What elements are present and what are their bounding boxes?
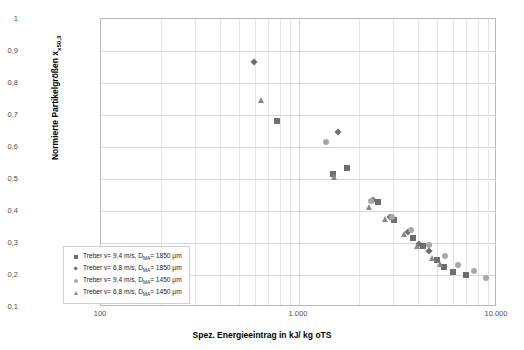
data-point-circle	[323, 139, 329, 145]
x-axis-tick-label: 10.000	[485, 309, 508, 318]
data-point-triangle	[401, 231, 407, 237]
x-axis-tick-label: 100	[94, 309, 107, 318]
y-axis-tick-label: 0,4	[0, 206, 18, 215]
x-axis-label: Spez. Energieeintrag in kJ/ kg oTS	[0, 330, 524, 340]
data-point-circle	[426, 242, 432, 248]
vertical-gridline-minor	[220, 19, 221, 305]
y-axis-tick-label: 1	[0, 14, 18, 23]
legend-marker-diamond-icon	[69, 267, 83, 270]
data-point-circle	[455, 262, 461, 268]
vertical-gridline-minor	[453, 19, 454, 305]
vertical-gridline-minor	[418, 19, 419, 305]
vertical-gridline-minor	[488, 19, 489, 305]
data-point-circle	[368, 198, 374, 204]
legend-label: Treber v= 9,4 m/s, DMA= 1850 µm	[83, 252, 182, 261]
data-point-triangle	[429, 255, 435, 261]
vertical-gridline-minor	[290, 19, 291, 305]
legend-label: Treber v= 6,8 m/s, DMA= 1850 µm	[83, 264, 182, 273]
data-point-square	[274, 118, 280, 124]
y-axis-tick-label: 0,9	[0, 46, 18, 55]
vertical-gridline-minor	[393, 19, 394, 305]
legend-label: Treber v= 9,4 m/s, DMA= 1450 µm	[83, 276, 182, 285]
chart-figure: 0,10,20,30,40,50,60,70,80,91 1001.00010.…	[0, 0, 524, 350]
data-point-square	[344, 165, 350, 171]
legend-marker-circle-icon	[69, 279, 83, 283]
y-axis-label-subscript: x50,3	[55, 36, 62, 51]
legend-item[interactable]: Treber v= 9,4 m/s, DMA= 1850 µm	[69, 251, 182, 263]
data-point-triangle	[414, 243, 420, 249]
data-point-triangle	[437, 261, 443, 267]
data-point-triangle	[366, 204, 372, 210]
data-point-circle	[483, 275, 489, 281]
y-axis-tick-label: 0,8	[0, 78, 18, 87]
data-point-triangle	[258, 97, 264, 103]
vertical-gridline-minor	[466, 19, 467, 305]
data-point-circle	[442, 253, 448, 259]
x-axis-tick-label: 1.000	[289, 309, 308, 318]
vertical-gridline-minor	[195, 19, 196, 305]
legend-item[interactable]: Treber v= 9,4 m/s, DMA= 1450 µm	[69, 275, 182, 287]
vertical-gridline-minor	[478, 19, 479, 305]
data-point-square	[375, 199, 381, 205]
y-axis-label: Normierte Partikelgrößen xx50,3	[50, 18, 62, 178]
vertical-gridline-minor	[359, 19, 360, 305]
vertical-gridline-major	[299, 19, 300, 305]
data-point-triangle	[382, 216, 388, 222]
data-point-triangle	[331, 174, 337, 180]
y-axis-tick-label: 0,3	[0, 238, 18, 247]
vertical-gridline-minor	[268, 19, 269, 305]
y-axis-tick-label: 0,2	[0, 270, 18, 279]
legend-item[interactable]: Treber v= 6,8 m/s, DMA= 1850 µm	[69, 263, 182, 275]
data-point-square	[450, 269, 456, 275]
vertical-gridline-minor	[280, 19, 281, 305]
data-point-square	[410, 235, 416, 241]
data-point-circle	[408, 227, 414, 233]
data-point-circle	[471, 268, 477, 274]
data-point-circle	[389, 214, 395, 220]
legend-marker-triangle-icon	[69, 291, 83, 295]
vertical-gridline-minor	[239, 19, 240, 305]
legend-marker-square-icon	[69, 255, 83, 259]
y-axis-tick-label: 0,1	[0, 302, 18, 311]
y-axis-tick-label: 0,6	[0, 142, 18, 151]
legend-label: Treber v= 6,8 m/s, DMA= 1450 µm	[83, 288, 182, 297]
chart-legend: Treber v= 9,4 m/s, DMA= 1850 µmTreber v=…	[63, 246, 190, 304]
data-point-square	[463, 272, 469, 278]
y-axis-tick-label: 0,5	[0, 174, 18, 183]
legend-item[interactable]: Treber v= 6,8 m/s, DMA= 1450 µm	[69, 287, 182, 299]
y-axis-label-text: Normierte Partikelgrößen x	[50, 51, 60, 160]
y-axis-tick-label: 0,7	[0, 110, 18, 119]
